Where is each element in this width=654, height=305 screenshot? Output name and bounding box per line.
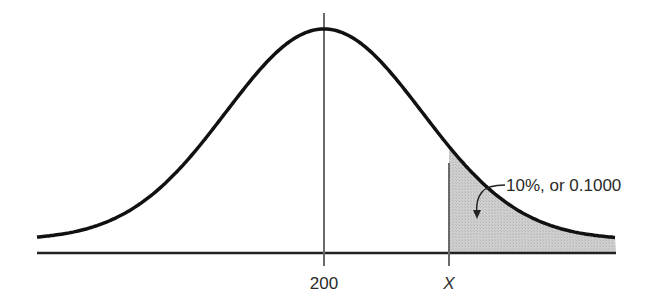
annotation-label: 10%, or 0.1000 [506,176,621,195]
normal-curve [37,29,615,237]
normal-distribution-chart: 10%, or 0.1000 200 X [0,0,654,305]
tick-label-mean: 200 [310,274,338,293]
shaded-tail-region [449,147,616,254]
tick-label-x: X [442,274,455,293]
